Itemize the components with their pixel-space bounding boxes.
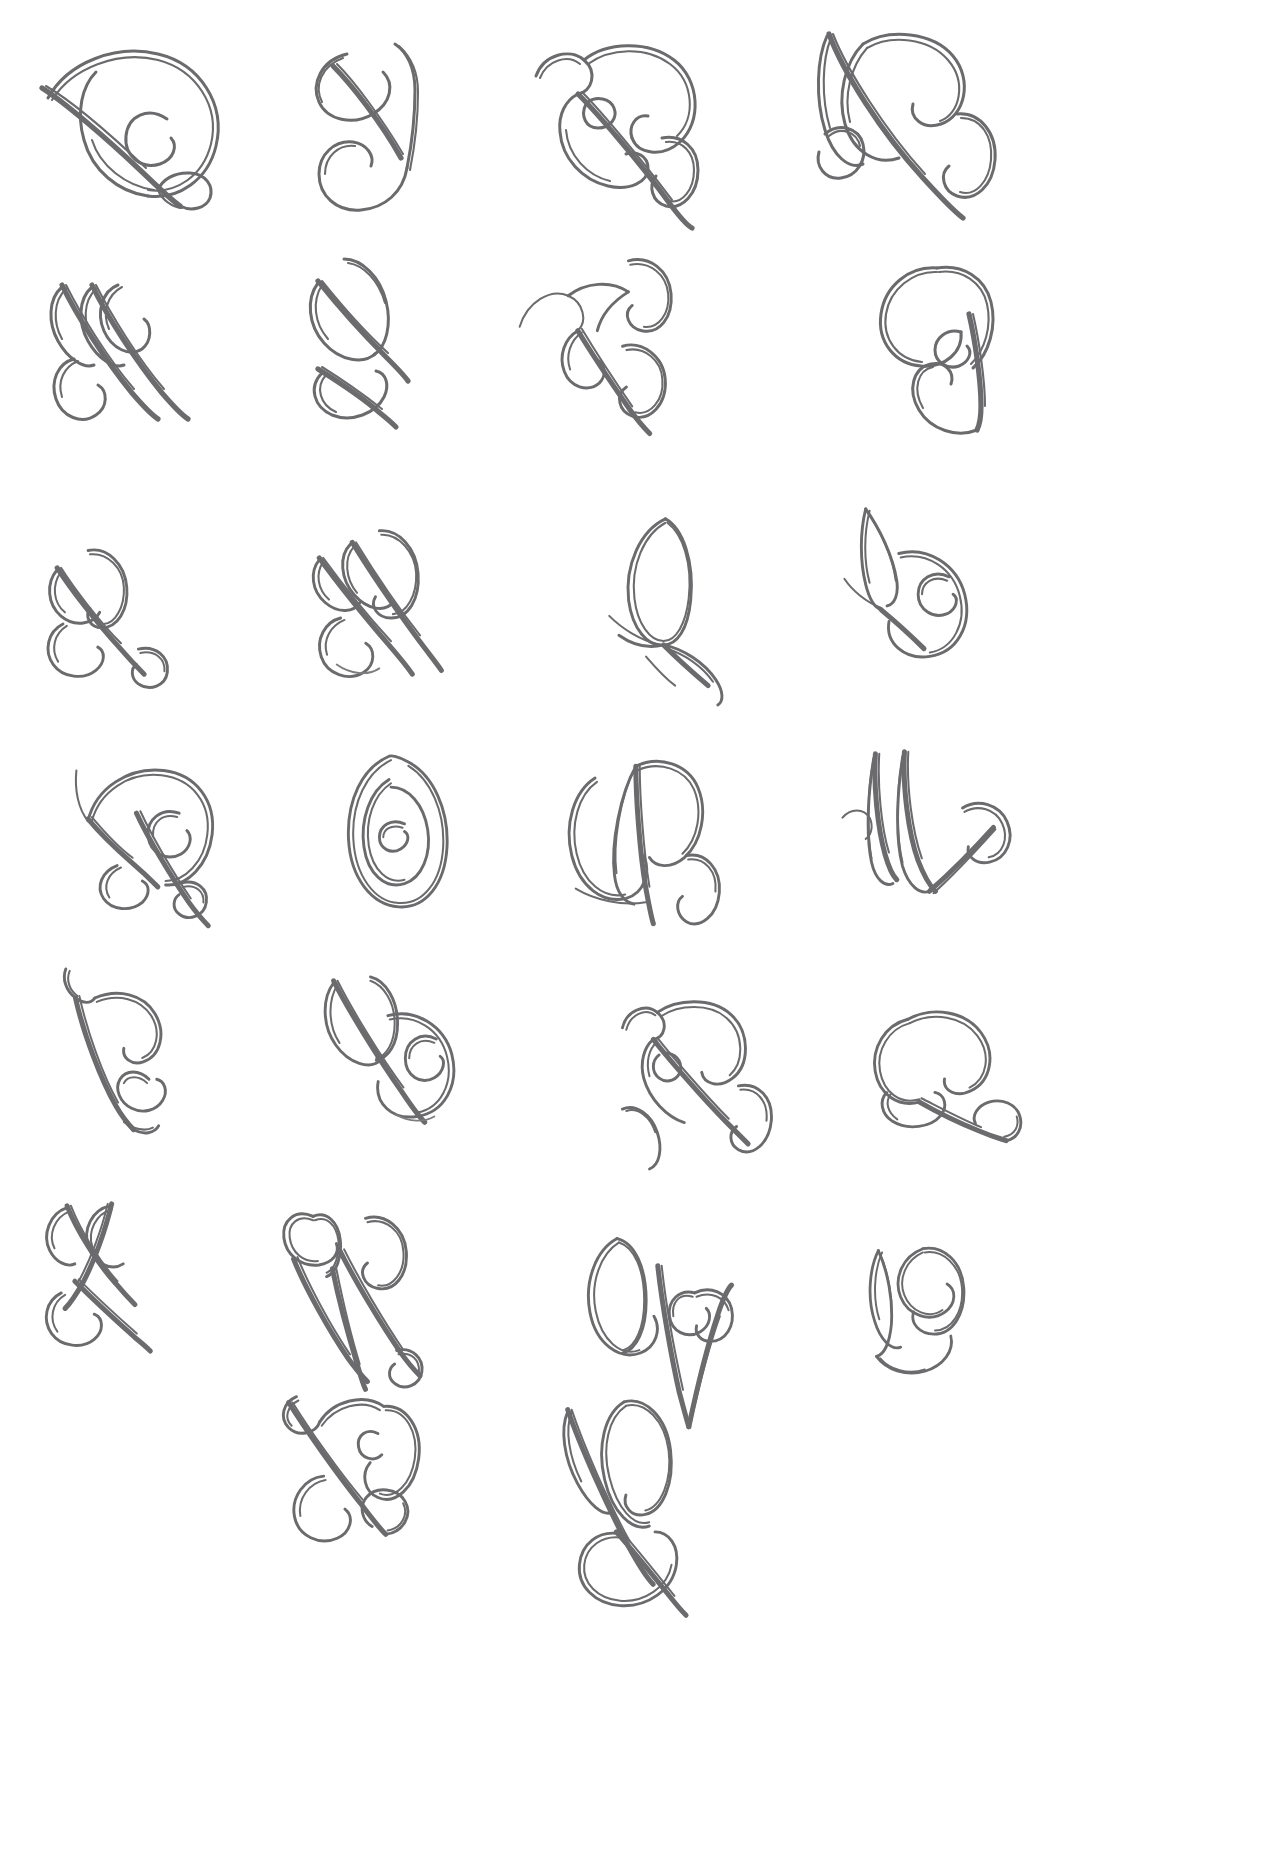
- glyph-cell-p: [605, 515, 755, 675]
- glyph-drawing-s: [865, 1245, 1005, 1375]
- glyph-cell-s: [865, 1245, 1005, 1375]
- glyph-drawing-b: [320, 975, 480, 1130]
- glyph-cell-b: [320, 975, 480, 1130]
- glyph-cell-m: [840, 748, 1025, 898]
- glyph-cell-r-3: [620, 995, 795, 1140]
- glyph-drawing-c-2: [865, 1000, 1025, 1130]
- glyph-cell-h-1: [40, 265, 210, 425]
- glyph-drawing-k-1: [300, 255, 455, 425]
- glyph-cell-e-1: [840, 505, 1005, 670]
- glyph-drawing-u: [560, 745, 735, 910]
- glyph-cell-u: [560, 745, 735, 910]
- glyph-drawing-j: [295, 40, 445, 220]
- calligraphy-practice-sheet: [0, 0, 1263, 1874]
- glyph-cell-v: [580, 1225, 755, 1385]
- glyph-drawing-o: [335, 750, 475, 915]
- glyph-cell-c-1: [60, 965, 210, 1120]
- glyph-cell-o: [335, 750, 475, 915]
- glyph-cell-j: [295, 40, 445, 220]
- glyph-drawing-h-1: [40, 265, 210, 425]
- glyph-drawing-q: [30, 28, 230, 218]
- glyph-drawing-z: [515, 255, 700, 420]
- glyph-cell-x: [275, 1385, 445, 1545]
- glyph-cell-y: [560, 1390, 720, 1570]
- glyph-drawing-r-1: [530, 30, 720, 225]
- glyph-drawing-c-1: [60, 965, 210, 1120]
- glyph-drawing-g: [865, 258, 1025, 428]
- glyph-drawing-y: [560, 1390, 720, 1570]
- glyph-cell-h-2: [305, 525, 475, 680]
- glyph-cell-w: [280, 1195, 450, 1365]
- glyph-drawing-r-3: [620, 995, 795, 1140]
- glyph-cell-z: [515, 255, 700, 420]
- glyph-cell-q: [30, 28, 230, 218]
- glyph-drawing-d: [70, 755, 235, 915]
- glyph-drawing-p: [605, 515, 755, 675]
- glyph-drawing-e-1: [840, 505, 1005, 670]
- glyph-drawing-x: [275, 1385, 445, 1545]
- glyph-drawing-v: [580, 1225, 755, 1385]
- glyph-cell-r-2: [805, 18, 1010, 228]
- glyph-cell-g: [865, 258, 1025, 428]
- glyph-cell-f: [40, 1200, 190, 1350]
- glyph-cell-r-1: [530, 30, 720, 225]
- glyph-cell-l: [35, 535, 205, 680]
- glyph-cell-d: [70, 755, 235, 915]
- glyph-cell-c-2: [865, 1000, 1025, 1130]
- glyph-drawing-f: [40, 1200, 190, 1350]
- glyph-cell-k-1: [300, 255, 455, 425]
- glyph-drawing-l: [35, 535, 205, 680]
- glyph-drawing-r-2: [805, 18, 1010, 228]
- glyph-drawing-h-2: [305, 525, 475, 680]
- glyph-drawing-m: [840, 748, 1025, 898]
- glyph-drawing-w: [280, 1195, 450, 1365]
